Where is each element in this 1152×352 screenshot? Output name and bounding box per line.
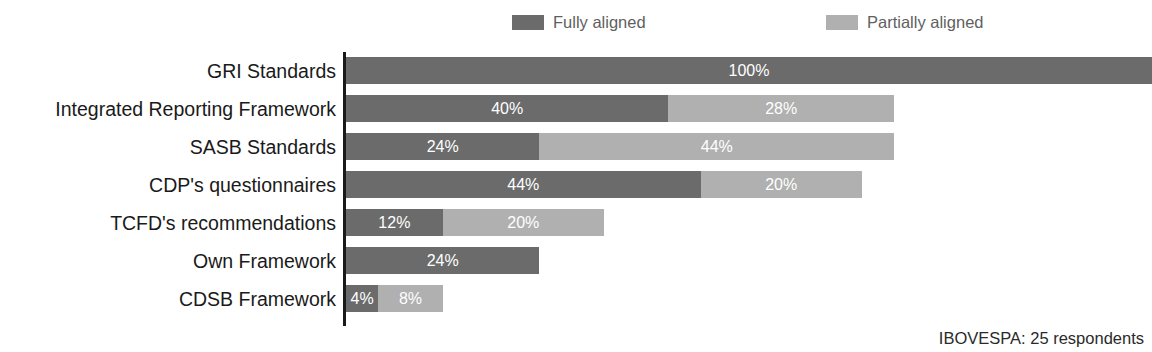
bar-value-label: 8% — [399, 291, 422, 307]
category-label-tcfd-recommendations: TCFD's recommendations — [110, 204, 336, 242]
category-label-own-framework: Own Framework — [193, 242, 336, 280]
bar-segment-fully-aligned: 4% — [346, 285, 378, 312]
bar-value-label: 44% — [701, 139, 733, 155]
category-label-cdsb-framework: CDSB Framework — [179, 280, 336, 318]
bar-group: 12% 20% — [346, 209, 604, 236]
bar-value-label: 28% — [765, 101, 797, 117]
bar-value-label: 44% — [507, 177, 539, 193]
stacked-bar-chart: Fully aligned Partially aligned GRI Stan… — [0, 0, 1152, 352]
bar-value-label: 20% — [507, 215, 539, 231]
legend-item-fully-aligned: Fully aligned — [512, 12, 646, 32]
bar-segment-fully-aligned: 12% — [346, 209, 443, 236]
chart-row: SASB Standards 24% 44% — [0, 128, 1152, 166]
legend-swatch-fully-aligned-icon — [512, 15, 544, 30]
bar-segment-partially-aligned: 28% — [668, 95, 894, 122]
chart-row: CDP's questionnaires 44% 20% — [0, 166, 1152, 204]
bar-group: 100% — [346, 57, 1152, 84]
chart-row: Own Framework 24% — [0, 242, 1152, 280]
chart-legend: Fully aligned Partially aligned — [0, 0, 1152, 44]
bar-group: 24% — [346, 247, 539, 274]
chart-row: GRI Standards 100% — [0, 52, 1152, 90]
plot-area: GRI Standards 100% Integrated Reporting … — [0, 44, 1152, 324]
bar-group: 40% 28% — [346, 95, 894, 122]
legend-swatch-partially-aligned-icon — [826, 15, 858, 30]
bar-segment-fully-aligned: 40% — [346, 95, 668, 122]
bar-value-label: 12% — [378, 215, 410, 231]
legend-label-partially-aligned: Partially aligned — [867, 14, 983, 31]
bar-segment-fully-aligned: 44% — [346, 171, 701, 198]
bar-segment-partially-aligned: 44% — [539, 133, 894, 160]
chart-row: CDSB Framework 4% 8% — [0, 280, 1152, 318]
category-label-sasb-standards: SASB Standards — [190, 128, 336, 166]
bar-value-label: 40% — [491, 101, 523, 117]
category-label-gri-standards: GRI Standards — [207, 52, 336, 90]
bar-segment-fully-aligned: 24% — [346, 133, 539, 160]
bar-segment-fully-aligned: 24% — [346, 247, 539, 274]
bar-value-label: 24% — [427, 139, 459, 155]
bar-value-label: 24% — [427, 253, 459, 269]
bar-group: 44% 20% — [346, 171, 862, 198]
bar-value-label: 100% — [729, 63, 770, 79]
chart-footnote: IBOVESPA: 25 respondents — [939, 329, 1144, 348]
category-label-cdp-questionnaires: CDP's questionnaires — [149, 166, 336, 204]
bar-segment-partially-aligned: 8% — [378, 285, 442, 312]
legend-item-partially-aligned: Partially aligned — [826, 12, 983, 32]
chart-row: TCFD's recommendations 12% 20% — [0, 204, 1152, 242]
chart-row: Integrated Reporting Framework 40% 28% — [0, 90, 1152, 128]
bar-value-label: 20% — [765, 177, 797, 193]
bar-segment-partially-aligned: 20% — [701, 171, 862, 198]
legend-label-fully-aligned: Fully aligned — [553, 14, 646, 31]
category-label-integrated-reporting-framework: Integrated Reporting Framework — [55, 90, 336, 128]
bar-segment-fully-aligned: 100% — [346, 57, 1152, 84]
bar-group: 4% 8% — [346, 285, 443, 312]
bar-group: 24% 44% — [346, 133, 894, 160]
bar-segment-partially-aligned: 20% — [443, 209, 604, 236]
bar-value-label: 4% — [351, 291, 374, 307]
